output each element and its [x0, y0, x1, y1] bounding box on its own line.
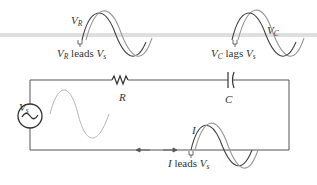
vc-lag-marker — [233, 40, 237, 47]
i-wave-label: I — [192, 125, 196, 136]
i-relation-label: I leads Vs — [168, 158, 209, 171]
rc-circuit-diagram: Vs R C VR VR leads Vs VC VC lags Vs I I … — [0, 0, 317, 185]
source-label: Vs — [19, 102, 29, 115]
vc-wave-label: VC — [267, 25, 279, 38]
vr-lead-marker — [78, 40, 82, 47]
vc-relation-label: VC lags Vs — [211, 48, 256, 61]
resistor-label: R — [119, 92, 126, 103]
capacitor-label: C — [225, 94, 232, 105]
vs-waveform — [50, 90, 109, 138]
circuit-wires — [30, 80, 289, 150]
resistor-symbol — [112, 76, 128, 84]
capacitor-symbol — [228, 72, 234, 88]
vr-wave-label: VR — [71, 15, 82, 28]
vr-relation-label: VR leads Vs — [57, 48, 106, 61]
